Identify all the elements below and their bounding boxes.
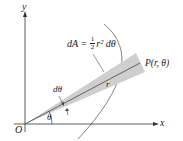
formula-rhs: r² dθ bbox=[96, 38, 115, 49]
formula-lhs: dA bbox=[67, 38, 78, 49]
y-axis-label: y bbox=[22, 2, 26, 12]
dtheta-label: dθ bbox=[53, 85, 62, 94]
radius-label: r bbox=[106, 80, 110, 89]
origin-label: O bbox=[15, 125, 22, 135]
small-arrow-icon bbox=[65, 108, 69, 111]
formula-leader-line bbox=[93, 54, 104, 72]
x-axis-label: x bbox=[160, 118, 164, 128]
area-sector bbox=[25, 53, 145, 124]
point-label: P(r, θ) bbox=[145, 59, 169, 69]
x-axis-arrow-icon bbox=[153, 122, 159, 126]
theta-label: θ bbox=[47, 113, 51, 122]
formula-denominator: 2 bbox=[91, 44, 95, 51]
radius-ray bbox=[25, 63, 140, 124]
area-formula: dA = 1 2 r² dθ bbox=[67, 36, 116, 51]
polar-area-diagram bbox=[0, 0, 183, 141]
formula-equals: = bbox=[81, 38, 87, 49]
